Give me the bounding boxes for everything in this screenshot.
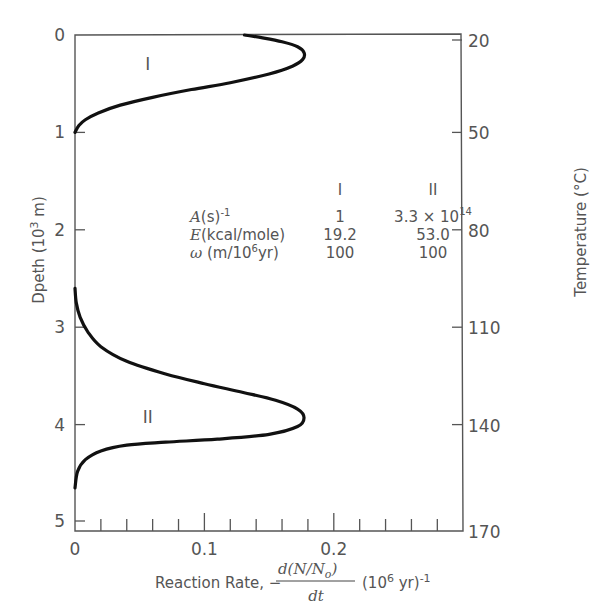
table-value-i: 100 (326, 244, 355, 262)
table-param: ω (m/106yr) (190, 243, 279, 262)
y2-tick-label: 20 (468, 31, 490, 51)
y2-tick-label: 140 (468, 416, 500, 436)
y2-tick-label: 50 (468, 123, 490, 143)
x-axis-title-units: (106 yr)-1 (362, 572, 431, 592)
table-param: A(s)-1 (188, 207, 230, 226)
y-axis-title: Dpeth (103 m) (28, 196, 48, 304)
y2-axis-title: Temperature (°C) (572, 167, 590, 297)
curve-ii (75, 288, 304, 488)
curve-i (75, 35, 305, 132)
y-tick-label: 2 (54, 220, 65, 240)
table-value-ii: 100 (419, 244, 448, 262)
curve-label-ii: II (143, 407, 153, 427)
plot-frame (75, 34, 463, 531)
y2-tick-label: 170 (468, 522, 500, 542)
y-tick-label: 3 (54, 317, 65, 337)
table-value-i: 1 (335, 208, 345, 226)
table-header-i: I (338, 181, 342, 199)
table-value-ii: 3.3 × 1014 (394, 206, 472, 226)
curve-label-i: I (145, 54, 150, 74)
x-tick-label: 0.2 (320, 539, 347, 559)
y2-tick-label: 80 (468, 221, 490, 241)
reaction-rate-depth-chart: 00.10.2012345205080110140170IIIDpeth (10… (0, 0, 606, 616)
x-axis-title: Reaction Rate, − (155, 574, 281, 592)
y-tick-label: 1 (54, 122, 65, 142)
x-tick-label: 0 (70, 539, 81, 559)
table-header-ii: II (429, 181, 438, 199)
table-value-i: 19.2 (323, 226, 356, 244)
labels: 00.10.2012345205080110140170IIIDpeth (10… (28, 25, 590, 605)
parameter-table: IIIA(s)-113.3 × 1014E(kcal/mole)19.253.0… (188, 181, 472, 262)
y-tick-label: 4 (54, 415, 65, 435)
plot-axes (75, 34, 463, 531)
table-param: E(kcal/mole) (189, 226, 285, 244)
y2-tick-label: 110 (468, 318, 500, 338)
y-tick-label: 0 (54, 25, 65, 45)
y-tick-label: 5 (54, 511, 65, 531)
x-tick-label: 0.1 (191, 539, 218, 559)
x-axis-title-numerator: d(N/No) (278, 560, 337, 581)
table-value-ii: 53.0 (416, 226, 449, 244)
x-axis-title-denominator: dt (308, 587, 325, 605)
